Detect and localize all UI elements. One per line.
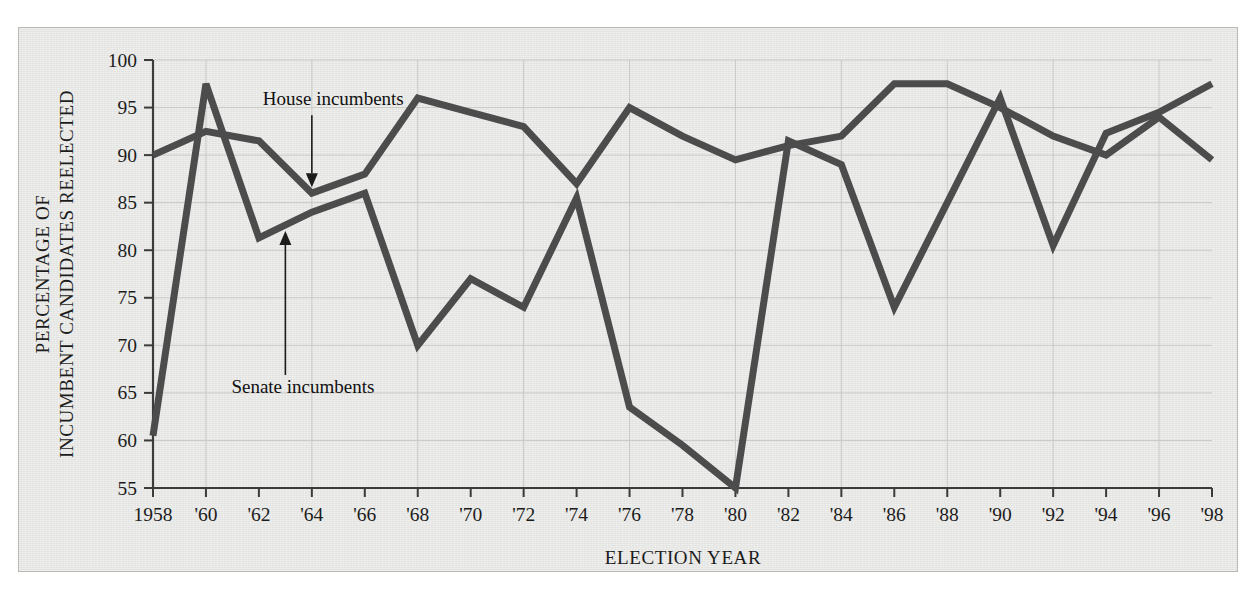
annotation-senate-label: Senate incumbents xyxy=(231,376,374,397)
y-axis-tick-label: 60 xyxy=(118,430,138,451)
annotation-senate-incumbents: Senate incumbents xyxy=(231,231,374,397)
x-axis-tick-label: '94 xyxy=(1095,504,1118,525)
x-axis-tick-label: '70 xyxy=(459,504,482,525)
x-axis-tick-label: '68 xyxy=(406,504,429,525)
x-axis-tick-label: '92 xyxy=(1042,504,1065,525)
x-axis-tick-labels: 1958'60'62'64'66'68'70'72'74'76'78'80'82… xyxy=(134,504,1224,525)
x-axis-tick-label: '82 xyxy=(777,504,800,525)
x-axis-ticks-group xyxy=(153,488,1212,497)
line-chart-svg: 556065707580859095100 1958'60'62'64'66'6… xyxy=(0,0,1254,604)
x-axis-tick-label: '86 xyxy=(883,504,906,525)
annotation-senate-arrowhead-icon xyxy=(279,231,291,245)
y-axis-tick-label: 55 xyxy=(118,478,138,499)
x-axis-tick-label: '78 xyxy=(671,504,694,525)
x-axis-tick-label: '66 xyxy=(353,504,376,525)
x-axis-tick-label: '84 xyxy=(830,504,853,525)
y-axis-tick-label: 85 xyxy=(118,192,138,213)
x-axis-title: ELECTION YEAR xyxy=(605,547,761,568)
x-axis-tick-label: '74 xyxy=(565,504,588,525)
annotation-house-incumbents: House incumbents xyxy=(263,88,404,187)
x-axis-tick-label: '64 xyxy=(300,504,323,525)
vertical-gridlines-group xyxy=(206,60,1159,488)
x-axis-tick-label: '90 xyxy=(989,504,1012,525)
y-axis-tick-label: 100 xyxy=(108,50,137,71)
x-axis-tick-label: '72 xyxy=(512,504,535,525)
y-axis-tick-label: 95 xyxy=(118,97,138,118)
chart-figure: 556065707580859095100 1958'60'62'64'66'6… xyxy=(0,0,1254,604)
y-axis-title-line2: INCUMBENT CANDIDATES REELECTED xyxy=(56,90,77,458)
y-axis-title-line1: PERCENTAGE OF xyxy=(32,195,53,354)
x-axis-tick-label: '96 xyxy=(1148,504,1171,525)
y-axis-tick-label: 90 xyxy=(118,145,138,166)
x-axis-tick-label: '62 xyxy=(247,504,270,525)
x-axis-tick-label: 1958 xyxy=(134,504,173,525)
x-axis-tick-label: '60 xyxy=(194,504,217,525)
x-axis-tick-label: '76 xyxy=(618,504,641,525)
y-axis-tick-labels: 556065707580859095100 xyxy=(108,50,137,499)
x-axis-tick-label: '88 xyxy=(936,504,959,525)
y-axis-tick-label: 70 xyxy=(118,335,138,356)
x-axis-tick-label: '98 xyxy=(1200,504,1223,525)
chart-canvas: 556065707580859095100 1958'60'62'64'66'6… xyxy=(0,0,1254,604)
y-axis-tick-label: 80 xyxy=(118,240,138,261)
y-axis-tick-label: 65 xyxy=(118,382,138,403)
annotation-house-label: House incumbents xyxy=(263,88,404,109)
x-axis-tick-label: '80 xyxy=(724,504,747,525)
y-axis-tick-label: 75 xyxy=(118,287,138,308)
